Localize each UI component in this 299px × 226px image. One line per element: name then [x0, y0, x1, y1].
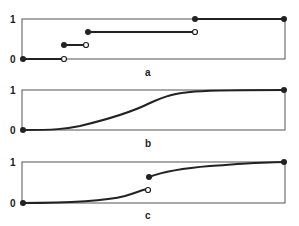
- panel-b-curve: [22, 90, 285, 130]
- panel-b-caption: b: [145, 138, 151, 149]
- panel-b-ytick-0: 0: [10, 125, 16, 136]
- open-dot: [146, 188, 151, 193]
- open-dot: [193, 30, 198, 35]
- open-dot: [62, 57, 67, 62]
- panel-a-steps: [22, 19, 285, 59]
- panel-a-caption: a: [145, 67, 151, 78]
- panel-c-ytick-1: 1: [10, 157, 16, 168]
- panel-c-caption: c: [145, 210, 151, 221]
- filled-dot: [281, 16, 287, 22]
- panel-c: 1 0 c: [10, 157, 287, 221]
- panel-a-ytick-1: 1: [10, 14, 16, 25]
- panel-b: 1 0 b: [10, 85, 287, 149]
- panel-c-curve-left: [22, 189, 147, 203]
- filled-dot: [61, 42, 67, 48]
- filled-dot: [20, 200, 26, 206]
- panel-a: 1 0 a: [10, 14, 287, 78]
- filled-dot: [281, 159, 287, 165]
- open-dot: [84, 43, 89, 48]
- filled-dot: [281, 87, 287, 93]
- filled-dot: [146, 174, 152, 180]
- cdf-diagram: 1 0 a 1 0 b 1 0: [0, 0, 299, 226]
- filled-dot: [192, 16, 198, 22]
- filled-dot: [20, 127, 26, 133]
- panel-c-frame: [22, 162, 285, 203]
- filled-dot: [85, 29, 91, 35]
- filled-dot: [20, 56, 26, 62]
- panel-b-ytick-1: 1: [10, 85, 16, 96]
- panel-c-curve-right: [149, 162, 285, 177]
- panel-a-ytick-0: 0: [10, 54, 16, 65]
- panel-a-frame: [22, 19, 285, 59]
- panel-b-frame: [22, 90, 285, 130]
- panel-c-ytick-0: 0: [10, 198, 16, 209]
